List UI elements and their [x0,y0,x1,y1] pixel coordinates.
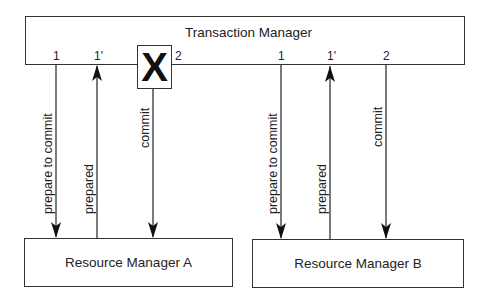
message-label-b-commit: commit [371,107,385,147]
message-arrows [0,0,488,306]
step-label-a-1prime: 1' [94,49,103,63]
step-label-b-1: 1 [278,49,285,63]
message-label-b-prepare: prepare to commit [266,113,280,214]
message-label-a-commit: commit [138,108,152,148]
step-label-b-2: 2 [383,49,390,63]
message-label-b-prepared: prepared [315,164,329,214]
message-label-a-prepared: prepared [82,164,96,214]
message-label-a-prepare: prepare to commit [41,113,55,214]
step-label-b-1prime: 1' [327,49,336,63]
step-label-a-1: 1 [53,49,60,63]
step-label-a-2: 2 [175,49,182,63]
failure-x-icon: X [137,45,172,89]
